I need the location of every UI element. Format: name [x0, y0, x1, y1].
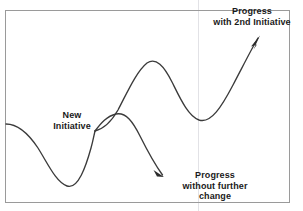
diagram-canvas: New Initiative Progress with 2nd Initiat… [0, 0, 303, 211]
original-path-curve [95, 114, 163, 175]
label-progress-with-2nd-initiative: Progress with 2nd Initiative [206, 6, 298, 27]
label-progress-without-further-change: Progress without further change [168, 170, 262, 202]
new-initiative-curve [95, 38, 258, 131]
label-new-initiative: New Initiative [41, 110, 103, 131]
base-curve [6, 124, 95, 186]
